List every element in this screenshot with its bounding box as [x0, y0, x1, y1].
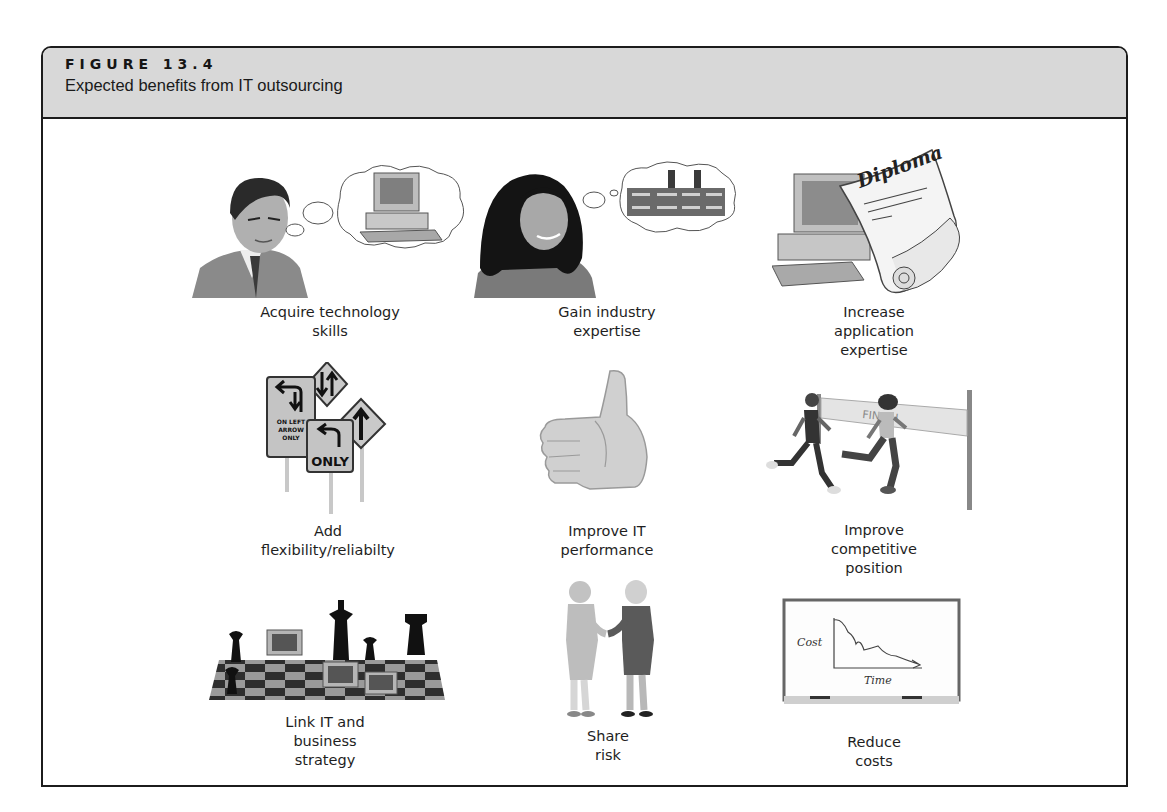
cost-time-whiteboard-icon: Cost Time [782, 598, 962, 718]
benefit-improve-it-performance: Improve IT performance [535, 367, 665, 517]
woman-thinking-of-factory-icon [472, 158, 742, 303]
benefit-caption: Improve competitive position [823, 521, 926, 578]
svg-text:ONLY: ONLY [311, 454, 349, 469]
benefit-improve-competitive-position: FINISH Improve competitive position [762, 388, 977, 513]
benefit-caption: Reduce costs [830, 733, 918, 771]
benefit-caption: Share risk [582, 727, 634, 765]
benefit-add-flexibility-reliability: ON LEFT ARROW ONLY ONLY Add flexibility/… [265, 362, 395, 512]
benefit-share-risk: Share risk [560, 580, 660, 725]
chessboard-with-computers-icon [205, 600, 450, 705]
runners-at-finish-line-icon: FINISH [762, 388, 977, 513]
benefit-acquire-technology-skills: Acquire technology skills [190, 158, 470, 303]
svg-text:Time: Time [864, 674, 892, 687]
businessman-thinking-of-computer-icon [190, 158, 470, 303]
benefit-caption: Improve IT performance [561, 522, 654, 560]
benefit-caption: Link IT and business strategy [263, 713, 388, 770]
benefit-caption: Acquire technology skills [260, 303, 400, 341]
benefit-link-it-and-business-strategy: Link IT and business strategy [205, 600, 450, 708]
svg-text:ONLY: ONLY [282, 434, 300, 441]
handshake-icon [560, 580, 660, 725]
svg-text:Cost: Cost [797, 636, 823, 649]
svg-text:ARROW: ARROW [278, 426, 304, 433]
computer-with-diploma-icon: Diploma [772, 146, 982, 303]
benefit-increase-application-expertise: Diploma Increase application expertise [772, 146, 982, 303]
figure-label: FIGURE 13.4 [65, 56, 217, 72]
benefit-caption: Increase application expertise [820, 303, 928, 360]
benefit-caption: Gain industry expertise [558, 303, 655, 341]
thumbs-up-icon [535, 367, 665, 517]
svg-text:ON LEFT: ON LEFT [277, 418, 306, 425]
traffic-signs-icon: ON LEFT ARROW ONLY ONLY [265, 362, 395, 514]
benefit-reduce-costs: Cost Time Reduce costs [782, 598, 962, 718]
figure-title: Expected benefits from IT outsourcing [65, 76, 343, 95]
benefit-caption: Add flexibility/reliabilty [261, 522, 395, 560]
benefit-gain-industry-expertise: Gain industry expertise [472, 158, 742, 303]
figure-header: FIGURE 13.4 Expected benefits from IT ou… [43, 48, 1126, 119]
